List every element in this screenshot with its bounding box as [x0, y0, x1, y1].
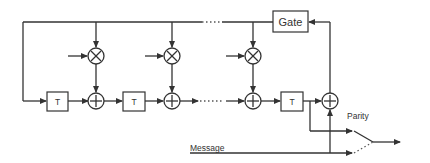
multiplier-icon [88, 48, 104, 64]
output-adder-icon [322, 93, 338, 109]
gate-feedback-path [309, 22, 330, 94]
adder-icon [88, 93, 104, 109]
message-label: Message [190, 143, 225, 153]
svg-text:T: T [131, 97, 136, 107]
gate-label: Gate [279, 16, 303, 28]
stage-2: T [123, 22, 222, 111]
adder-icon [245, 93, 261, 109]
feedback-bus [23, 22, 273, 101]
adder-icon [164, 93, 180, 109]
svg-text:T: T [289, 97, 294, 107]
stage-1: T [47, 22, 122, 111]
stage-n: T [226, 22, 321, 111]
multiplier-icon [164, 48, 180, 64]
parity-label: Parity [347, 111, 369, 121]
svg-text:T: T [55, 97, 60, 107]
multiplier-icon [245, 48, 261, 64]
encoder-diagram: Gate T T [0, 0, 430, 163]
gate-block: Gate [273, 11, 308, 32]
output-switch [354, 131, 400, 153]
